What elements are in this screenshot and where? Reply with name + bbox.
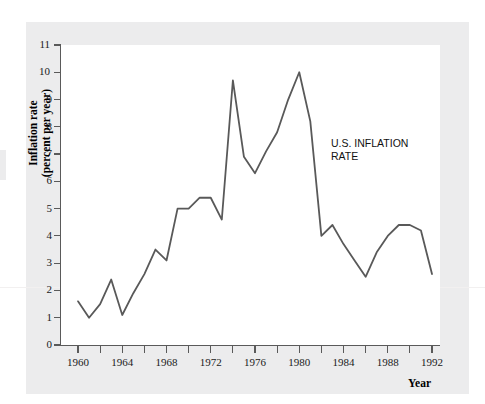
- y-axis-tick-label: 11: [28, 39, 50, 50]
- y-axis-tick-label: 0: [30, 339, 52, 350]
- x-axis-line: [60, 345, 440, 346]
- y-axis-tick: [54, 153, 61, 154]
- x-axis-tick-label: 1976: [235, 356, 275, 368]
- y-axis-tick-label: 1: [30, 312, 52, 323]
- x-axis-tick: [387, 346, 388, 353]
- x-axis-tick-label: 1984: [324, 356, 364, 368]
- x-axis-tick: [409, 346, 410, 353]
- x-axis-tick-label: 1992: [412, 356, 452, 368]
- x-axis-tick: [343, 346, 344, 353]
- x-axis-tick-label: 1968: [147, 356, 187, 368]
- x-axis-tick: [365, 346, 366, 353]
- x-axis-tick-label: 1972: [191, 356, 231, 368]
- y-axis-title: Inflation rate (percent per year): [27, 58, 53, 208]
- x-axis-tick: [431, 346, 432, 353]
- x-axis-tick: [232, 346, 233, 353]
- y-axis-line: [60, 45, 61, 346]
- y-axis-tick-label: 3: [30, 257, 52, 268]
- y-axis-tick: [54, 181, 61, 182]
- series-annotation-label: U.S. INFLATION RATE: [331, 137, 408, 163]
- y-axis-tick-label: 4: [30, 230, 52, 241]
- x-axis-tick: [254, 346, 255, 353]
- plot-panel: [60, 45, 440, 346]
- x-axis-tick-label: 1980: [279, 356, 319, 368]
- y-axis-title-line1: Inflation rate: [27, 100, 39, 165]
- x-axis-tick: [321, 346, 322, 353]
- x-axis-tick-label: 1960: [58, 356, 98, 368]
- x-axis-tick-label: 1964: [102, 356, 142, 368]
- page-edge-mark: [0, 150, 6, 180]
- y-axis-tick: [54, 208, 61, 209]
- chart-page: 01234567891011 1960196419681972197619801…: [0, 0, 485, 404]
- y-axis-tick: [54, 72, 61, 73]
- y-axis-title-line2: (percent per year): [40, 89, 52, 177]
- y-axis-tick: [54, 44, 61, 45]
- y-axis-tick: [54, 290, 61, 291]
- x-axis-tick-label: 1988: [368, 356, 408, 368]
- y-axis-tick-label: 2: [30, 284, 52, 295]
- x-axis-title: Year: [408, 377, 431, 389]
- y-axis-tick: [54, 99, 61, 100]
- x-axis-tick: [144, 346, 145, 353]
- y-axis-tick: [54, 263, 61, 264]
- x-axis-tick: [299, 346, 300, 353]
- x-axis-tick: [210, 346, 211, 353]
- y-axis-tick: [54, 344, 61, 345]
- y-axis-tick: [54, 126, 61, 127]
- x-axis-tick: [100, 346, 101, 353]
- x-axis-tick: [277, 346, 278, 353]
- x-axis-tick: [188, 346, 189, 353]
- y-axis-tick: [54, 235, 61, 236]
- x-axis-tick: [122, 346, 123, 353]
- x-axis-tick: [166, 346, 167, 353]
- y-axis-tick: [54, 317, 61, 318]
- x-axis-tick: [77, 346, 78, 353]
